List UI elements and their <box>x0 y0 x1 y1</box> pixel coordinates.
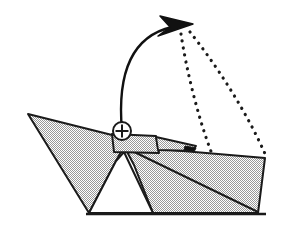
pivot-crosshair-group <box>113 122 131 140</box>
figure-canvas: Mechanical assembly motion diagram Line … <box>0 0 294 239</box>
technical-line-drawing <box>0 0 294 239</box>
